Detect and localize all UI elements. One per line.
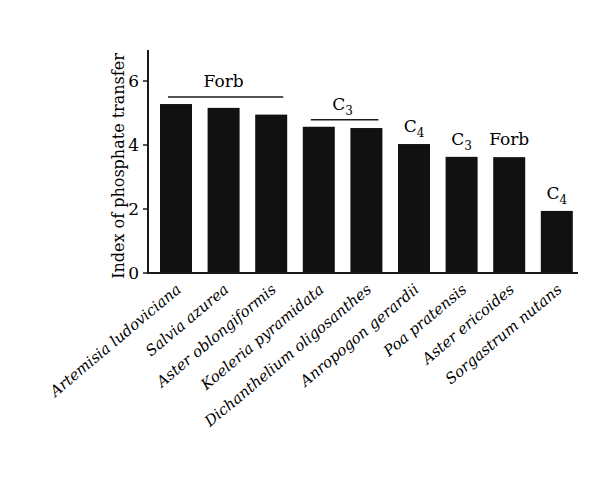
bar: [208, 108, 240, 273]
y-tick-label: 6: [128, 71, 139, 91]
group-label: C3: [451, 129, 472, 153]
group-label: C4: [404, 116, 425, 140]
y-tick-label: 0: [128, 263, 139, 283]
bar-chart: ForbC3C4C3ForbC4 0246 Artemisia ludovici…: [0, 0, 605, 502]
bar: [303, 127, 335, 273]
x-tick-labels: Artemisia ludovicianaSalvia azureaAster …: [45, 280, 566, 431]
bar: [541, 211, 573, 273]
bar: [398, 144, 430, 273]
group-label: C4: [546, 183, 567, 207]
y-tick-label: 4: [128, 135, 139, 155]
y-axis-label: Index of phosphate transfer: [109, 53, 128, 279]
group-label: C3: [332, 94, 353, 118]
bar: [350, 128, 382, 273]
bar: [255, 115, 287, 273]
bar: [446, 157, 478, 273]
group-label: Forb: [489, 129, 529, 149]
y-tick-label: 2: [128, 199, 139, 219]
bar: [493, 157, 525, 273]
group-label: Forb: [204, 71, 244, 91]
bar: [160, 104, 192, 273]
